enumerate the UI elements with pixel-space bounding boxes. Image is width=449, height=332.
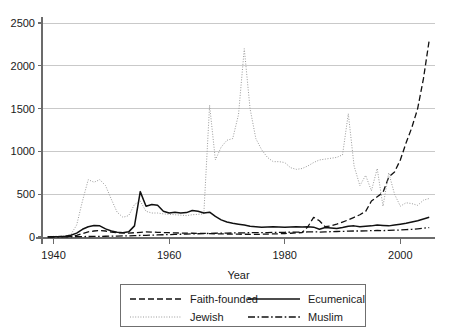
x-tick-label: 1980: [272, 249, 296, 261]
y-tick-label: 2000: [11, 60, 35, 72]
gridlines: [42, 23, 435, 237]
legend-label: Faith-founded: [190, 293, 258, 305]
y-tick-label: 1500: [11, 103, 35, 115]
y-axis-tick-labels: 05001000150020002500: [11, 17, 35, 243]
line-chart: 05001000150020002500 1940196019802000 Ye…: [0, 0, 449, 332]
y-axis-ticks: [38, 23, 42, 237]
legend-label: Jewish: [190, 311, 224, 323]
series-faith-founded: [48, 40, 429, 237]
series-jewish: [48, 49, 429, 237]
x-tick-label: 2000: [388, 249, 412, 261]
chart-container: 05001000150020002500 1940196019802000 Ye…: [0, 0, 449, 332]
x-tick-label: 1940: [41, 249, 65, 261]
y-tick-label: 1000: [11, 145, 35, 157]
x-tick-label: 1960: [157, 249, 181, 261]
chart-legend: Faith-foundedEcumenicalJewishMuslim: [120, 284, 365, 326]
x-axis-tick-labels: 1940196019802000: [41, 249, 412, 261]
legend-label: Muslim: [308, 311, 343, 323]
data-series-layer: [48, 40, 429, 237]
legend-label: Ecumenical: [308, 293, 365, 305]
series-ecumenical: [48, 192, 429, 237]
x-axis-ticks: [54, 238, 401, 244]
y-tick-label: 500: [17, 188, 35, 200]
y-tick-label: 0: [29, 231, 35, 243]
x-axis-title: Year: [227, 269, 250, 281]
y-tick-label: 2500: [11, 17, 35, 29]
